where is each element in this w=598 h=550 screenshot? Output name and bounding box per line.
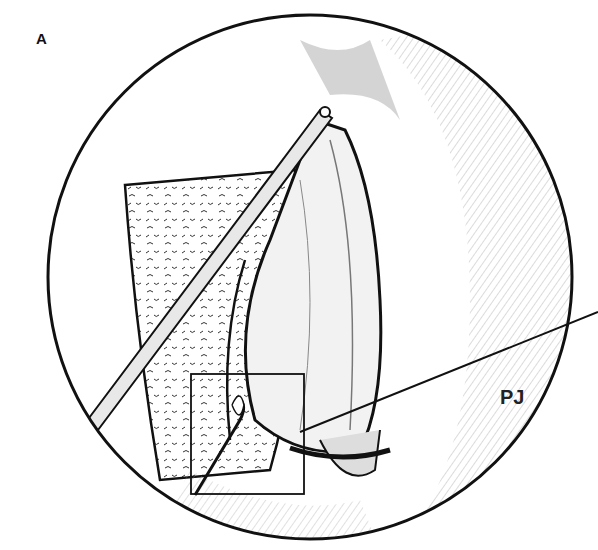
illustration (0, 0, 598, 550)
view-field (80, 0, 598, 550)
panel-label: A (36, 30, 47, 47)
artist-signature: PJ (500, 386, 524, 409)
tissue-mass (245, 120, 380, 452)
